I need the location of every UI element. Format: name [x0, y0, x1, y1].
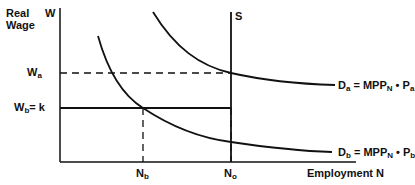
wage-b-base: W [14, 101, 24, 113]
demand-a-p-sub: a [410, 84, 414, 93]
demand-a-eq: = MPP [350, 79, 386, 91]
demand-b-p-sub: b [410, 151, 415, 160]
demand-b-d: D [338, 146, 346, 158]
wage-b-suffix: = k [29, 101, 45, 113]
wage-a-base: W [27, 66, 37, 78]
employment-b-base: N [136, 167, 144, 179]
x-axis-label: Employment N [307, 167, 384, 179]
wage-b-label: Wb= k [14, 101, 45, 113]
y-axis-label-line2: Wage [6, 19, 35, 31]
wage-a-label: Wa [27, 66, 42, 78]
y-axis-label-line1: Real [6, 7, 35, 19]
demand-b-label: Db = MPPN • Pb [338, 146, 415, 158]
demand-b-p: • P [393, 146, 410, 158]
employment-o-label: No [224, 167, 237, 179]
y-axis-label: Real Wage [6, 7, 35, 31]
demand-a-p: • P [393, 79, 410, 91]
employment-o-base: N [224, 167, 232, 179]
employment-b-sub: b [144, 172, 149, 181]
demand-curve-b [98, 36, 332, 152]
y-axis-symbol: W [45, 7, 55, 19]
demand-a-label: Da = MPPN • Pa [338, 79, 414, 91]
wage-a-sub: a [37, 71, 41, 80]
demand-curve-a [153, 12, 335, 85]
demand-a-d: D [338, 79, 346, 91]
employment-b-label: Nb [136, 167, 149, 179]
demand-b-eq: = MPP [351, 146, 387, 158]
employment-o-sub: o [232, 172, 237, 181]
supply-label: S [235, 10, 242, 22]
